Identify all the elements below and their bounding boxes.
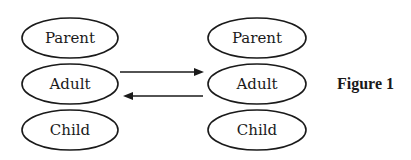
arrow-left-head-icon	[123, 92, 133, 100]
left-parent-label: Parent	[45, 29, 95, 47]
left-adult-label: Adult	[49, 75, 91, 93]
arrow-right-head-icon	[194, 68, 204, 76]
right-ego-states: Parent Adult Child	[208, 18, 306, 150]
right-adult-state: Adult	[208, 64, 306, 104]
right-child-label: Child	[237, 121, 278, 139]
left-parent-state: Parent	[22, 18, 118, 58]
left-ego-states: Parent Adult Child	[22, 18, 118, 150]
right-parent-label: Parent	[232, 29, 282, 47]
arrow-right	[120, 68, 204, 76]
arrow-left	[123, 92, 203, 100]
left-child-state: Child	[22, 110, 118, 150]
left-child-label: Child	[50, 121, 91, 139]
transaction-diagram: Parent Adult Child Parent Adult Child	[0, 0, 411, 160]
left-adult-state: Adult	[22, 64, 118, 104]
right-adult-label: Adult	[236, 75, 278, 93]
right-child-state: Child	[208, 110, 306, 150]
right-parent-state: Parent	[208, 18, 306, 58]
figure-caption: Figure 1	[337, 75, 394, 93]
